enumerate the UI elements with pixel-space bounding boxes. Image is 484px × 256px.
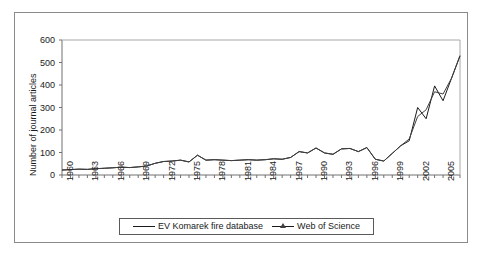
- y-tick-label: 0: [31, 171, 55, 180]
- x-tick-label: 1990: [320, 161, 329, 181]
- y-tick-label: 300: [31, 104, 55, 113]
- y-tick-label: 600: [31, 36, 55, 45]
- x-tick-label: 2002: [422, 161, 431, 181]
- chart-figure: Number of journal articles 0100200300400…: [0, 0, 484, 256]
- x-tick-label: 1987: [295, 161, 304, 181]
- chart-legend: EV Komarek fire database Web of Science: [119, 218, 374, 235]
- x-tick-label: 1993: [345, 161, 354, 181]
- y-tick-label: 400: [31, 81, 55, 90]
- x-tick-label: 2005: [447, 161, 456, 181]
- x-tick-label: 1960: [66, 161, 75, 181]
- x-tick-label: 1975: [193, 161, 202, 181]
- x-tick-label: 1972: [168, 161, 177, 181]
- x-tick-label: 1996: [371, 161, 380, 181]
- x-tick-label: 1966: [117, 161, 126, 181]
- x-tick-label: 1999: [396, 161, 405, 181]
- x-tick-label: 1969: [142, 161, 151, 181]
- x-tick-label: 1984: [269, 161, 278, 181]
- legend-item-komarek: EV Komarek fire database: [133, 222, 263, 231]
- x-tick-label: 1963: [91, 161, 100, 181]
- y-tick-label: 100: [31, 149, 55, 158]
- x-tick-label: 1978: [218, 161, 227, 181]
- legend-label-web-of-science: Web of Science: [297, 222, 360, 231]
- line-swatch-icon: [133, 222, 155, 231]
- y-tick-label: 200: [31, 126, 55, 135]
- legend-item-web-of-science: Web of Science: [272, 222, 360, 231]
- legend-label-komarek: EV Komarek fire database: [158, 222, 263, 231]
- line-triangle-swatch-icon: [272, 222, 294, 231]
- y-tick-label: 500: [31, 59, 55, 68]
- x-tick-label: 1981: [244, 161, 253, 181]
